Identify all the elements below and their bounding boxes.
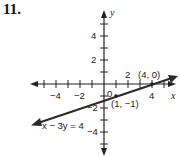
y-tick-label-2: 2 xyxy=(91,54,96,65)
x-tick-label-neg4: −4 xyxy=(50,90,61,101)
point-label-1-neg1: (1, −1) xyxy=(111,98,139,109)
x-tick-label-4: 4 xyxy=(149,90,154,101)
y-axis-label: y xyxy=(109,7,115,18)
y-axis-up-arrow-icon xyxy=(101,10,107,18)
point-4-0 xyxy=(150,82,154,86)
point-label-4-0: (4, 0) xyxy=(138,69,160,80)
y-axis xyxy=(100,10,108,156)
y-axis-down-arrow-icon xyxy=(101,148,107,156)
x-tick-label-neg2: −2 xyxy=(74,90,85,101)
coordinate-graph: −4 −2 0 2 4 x 4 2 −2 −4 y (4, 0) (1, −1)… xyxy=(0,0,180,158)
x-tick-label-2: 2 xyxy=(125,69,130,80)
line-left-arrow-icon xyxy=(31,118,42,126)
y-tick-label-4: 4 xyxy=(91,30,96,41)
x-axis-left-arrow-icon xyxy=(30,81,38,87)
y-tick-label-neg4: −4 xyxy=(87,126,98,137)
x-axis-label: x xyxy=(170,90,176,101)
equation-label: x − 3y = 4 xyxy=(42,120,84,131)
